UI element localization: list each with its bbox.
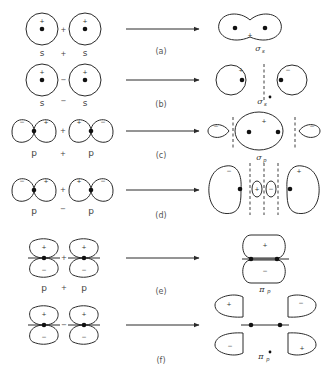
svg-text:+: +: [61, 284, 67, 292]
svg-text:π: π: [257, 352, 264, 361]
row-d-sigma-p-star-orbital: − + − +: [209, 163, 319, 215]
svg-text:+: +: [261, 117, 266, 124]
svg-text:p: p: [41, 283, 47, 293]
svg-text:p: p: [31, 148, 37, 158]
svg-text:+: +: [41, 243, 46, 250]
row-a-atomic-orbitals: + + + s + s: [26, 13, 101, 58]
svg-text:+: +: [299, 344, 304, 351]
svg-text:s: s: [40, 48, 45, 58]
svg-text:+: +: [82, 17, 87, 24]
svg-text:s: s: [40, 98, 45, 108]
svg-text:+: +: [247, 31, 252, 38]
svg-text:−: −: [60, 205, 66, 213]
row-tag-f: (f): [156, 356, 165, 365]
svg-text:+: +: [76, 177, 81, 184]
svg-text:s: s: [83, 98, 88, 108]
row-e-pi-p-orbital: + − π p: [242, 235, 289, 295]
svg-text:p: p: [263, 157, 267, 164]
svg-text:p: p: [266, 356, 270, 363]
svg-text:+: +: [81, 243, 86, 250]
svg-text:+: +: [60, 127, 66, 135]
row-tag-d: (d): [155, 211, 166, 220]
svg-text:−: −: [262, 267, 267, 274]
svg-text:p: p: [267, 288, 271, 295]
row-e-atomic-orbitals: + − + + − p + p: [28, 239, 100, 293]
row-tag-b: (b): [155, 100, 166, 109]
svg-text:−: −: [41, 266, 46, 273]
svg-text:σ: σ: [255, 44, 261, 53]
svg-text:σ: σ: [256, 153, 262, 162]
svg-text:+: +: [43, 177, 48, 184]
svg-text:+: +: [238, 66, 243, 73]
svg-text:−: −: [41, 333, 46, 340]
row-tag-c: (c): [156, 151, 167, 160]
svg-text:+: +: [82, 68, 87, 75]
svg-text:−: −: [213, 122, 218, 129]
svg-text:−: −: [61, 97, 67, 105]
svg-text:−: −: [298, 299, 303, 306]
svg-text:+: +: [61, 254, 67, 262]
svg-text:p: p: [88, 206, 94, 216]
row-f-atomic-orbitals: + − − + −: [28, 306, 100, 345]
svg-text:+: +: [81, 310, 86, 317]
mo-diagram: (a) (b) (c) (d) (e) (f) + + + s + s + σ …: [0, 0, 330, 377]
svg-text:−: −: [61, 321, 67, 329]
svg-text:+: +: [60, 150, 66, 158]
svg-text:−: −: [309, 122, 314, 129]
svg-text:p: p: [81, 283, 87, 293]
svg-text:−: −: [61, 76, 67, 84]
row-a-sigma-s-orbital: + σ s: [219, 14, 282, 54]
svg-text:−: −: [19, 177, 24, 184]
svg-text:s: s: [262, 48, 265, 54]
svg-text:+: +: [76, 118, 81, 125]
row-tag-e: (e): [155, 287, 166, 296]
reaction-arrows: [126, 29, 199, 325]
svg-text:−: −: [226, 167, 231, 174]
row-f-pi-p-star-orbital: + − − + π p: [215, 295, 316, 363]
svg-text:−: −: [81, 266, 86, 273]
svg-text:−: −: [227, 342, 232, 349]
svg-text:+: +: [41, 310, 46, 317]
svg-text:−: −: [268, 185, 273, 192]
svg-text:−: −: [100, 177, 105, 184]
row-tag-a: (a): [155, 47, 166, 56]
svg-text:+: +: [39, 17, 44, 24]
svg-text:+: +: [61, 50, 67, 58]
svg-text:−: −: [19, 118, 24, 125]
svg-text:s: s: [83, 48, 88, 58]
svg-text:−: −: [100, 118, 105, 125]
svg-text:+: +: [61, 26, 67, 34]
svg-text:−: −: [285, 66, 290, 73]
row-c-atomic-orbitals: − + + + − p + p: [12, 118, 113, 158]
svg-text:+: +: [39, 68, 44, 75]
row-d-atomic-orbitals: − + + + − p − p: [12, 177, 113, 216]
svg-text:−: −: [81, 333, 86, 340]
svg-text:p: p: [88, 148, 94, 158]
svg-text:+: +: [254, 185, 259, 192]
svg-text:+: +: [60, 186, 66, 194]
svg-text:+: +: [226, 300, 231, 307]
row-c-sigma-p-orbital: − + − σ p: [208, 112, 320, 164]
row-b-atomic-orbitals: + + − s − s: [26, 64, 101, 108]
svg-text:+: +: [296, 167, 301, 174]
row-b-sigma-s-star-orbital: + − σ s: [216, 64, 307, 107]
svg-text:+: +: [43, 118, 48, 125]
svg-text:s: s: [264, 101, 267, 107]
svg-text:p: p: [31, 206, 37, 216]
svg-text:π: π: [258, 285, 265, 294]
svg-text:σ: σ: [257, 97, 263, 106]
svg-text:+: +: [262, 241, 267, 248]
